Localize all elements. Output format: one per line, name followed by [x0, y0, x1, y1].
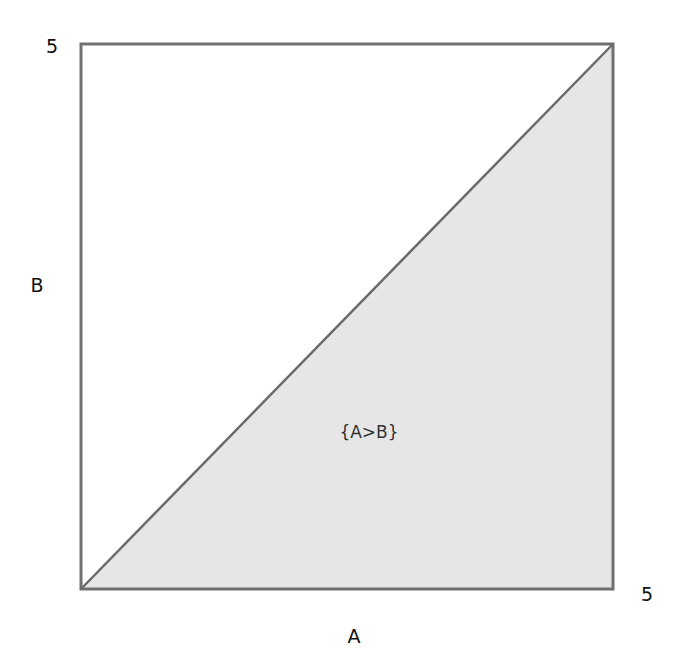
- y-max-label: 5: [46, 37, 58, 56]
- y-axis-label: B: [30, 276, 43, 295]
- region-label: {A>B}: [339, 424, 398, 441]
- x-max-label: 5: [641, 585, 653, 604]
- diagram-canvas: [0, 0, 681, 671]
- x-axis-label: A: [348, 627, 361, 646]
